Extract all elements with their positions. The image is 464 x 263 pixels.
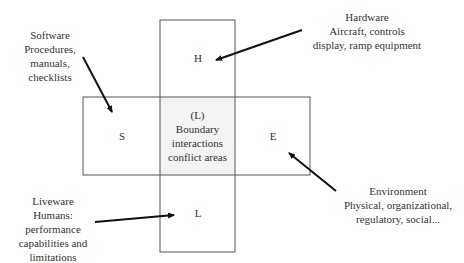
environment-label-line: Environment	[338, 184, 458, 198]
center-line: (L)	[160, 108, 235, 122]
environment-box-letter: E	[265, 130, 281, 142]
environment-label-line: Physical, organizational,	[338, 198, 458, 212]
liveware-label-line: limitations	[18, 250, 88, 263]
software-label-line: manuals,	[12, 56, 88, 70]
software-label-line: Software	[12, 28, 88, 42]
software-label: Software Procedures, manuals, checklists	[12, 28, 88, 84]
liveware-label-line: Humans:	[18, 208, 88, 222]
environment-label: Environment Physical, organizational, re…	[338, 184, 458, 226]
liveware-label-line: capabilities and	[18, 236, 88, 250]
liveware-label: Liveware Humans: performance capabilitie…	[18, 194, 88, 263]
liveware-box-letter: L	[190, 207, 206, 219]
hardware-arrow	[216, 30, 302, 60]
liveware-label-line: Liveware	[18, 194, 88, 208]
software-box-letter: S	[114, 130, 130, 142]
environment-arrow	[289, 153, 336, 191]
center-interface-text: (L) Boundary interactions conflict areas	[160, 108, 235, 164]
hardware-box-letter: H	[190, 52, 206, 64]
center-line: conflict areas	[160, 150, 235, 164]
liveware-label-line: performance	[18, 222, 88, 236]
software-label-line: Procedures,	[12, 42, 88, 56]
liveware-arrow	[95, 215, 174, 222]
hardware-label-line: Aircraft, controls	[304, 24, 430, 38]
hardware-label: Hardware Aircraft, controls display, ram…	[304, 10, 430, 52]
center-line: interactions	[160, 136, 235, 150]
environment-label-line: regulatory, social...	[338, 212, 458, 226]
hardware-label-line: display, ramp equipment	[304, 38, 430, 52]
hardware-label-line: Hardware	[304, 10, 430, 24]
center-line: Boundary	[160, 122, 235, 136]
software-label-line: checklists	[12, 70, 88, 84]
